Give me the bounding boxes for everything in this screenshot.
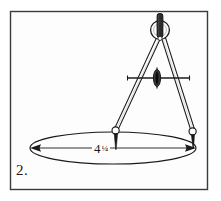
technical-illustration [0,0,221,201]
dimension-whole-number: 4 [94,141,101,156]
figure-panel: 4¼ 2. [0,0,221,201]
figure-label: 2. [16,163,28,178]
dimension-label: 4¼ [92,142,110,155]
compass-handle [157,14,163,41]
figure-border [11,12,208,190]
dimension-fraction: ¼ [102,143,109,153]
